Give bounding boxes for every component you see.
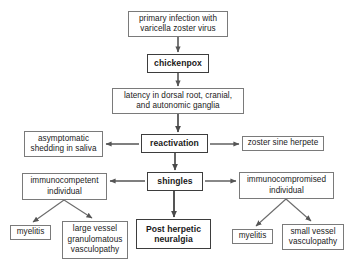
node-large-vessel-vasculopathy: large vessel granulomatous vasculopathy: [62, 221, 128, 259]
node-zoster-sine-herpete: zoster sine herpete: [242, 136, 324, 151]
node-post-herpetic-neuralgia: Post herpetic neuralgia: [136, 219, 211, 249]
node-small-vessel-vasculopathy: small vessel vasculopathy: [282, 224, 344, 250]
edge-immunocompetent-to-myelitis: [33, 200, 64, 222]
node-immunocompetent-individual: immunocompetent individual: [22, 173, 107, 200]
node-immunocompromised-individual: immunocompromised individual: [239, 172, 334, 199]
node-primary-infection: primary infection with varicella zoster …: [128, 11, 228, 37]
edge-immunocompromised-to-small-vessel: [286, 199, 311, 221]
node-myelitis-left: myelitis: [10, 225, 51, 240]
node-chickenpox: chickenpox: [147, 54, 209, 73]
flowchart-canvas: primary infection with varicella zoster …: [0, 0, 355, 272]
node-asymptomatic-shedding: asymptomatic shedding in saliva: [24, 131, 103, 157]
node-reactivation: reactivation: [141, 134, 208, 153]
edge-immunocompetent-to-large-vessel: [64, 200, 92, 218]
node-shingles: shingles: [147, 172, 203, 191]
node-myelitis-right: myelitis: [232, 229, 273, 244]
node-latency: latency in dorsal root, cranial, and aut…: [112, 88, 244, 114]
edge-immunocompromised-to-myelitis: [256, 199, 286, 226]
